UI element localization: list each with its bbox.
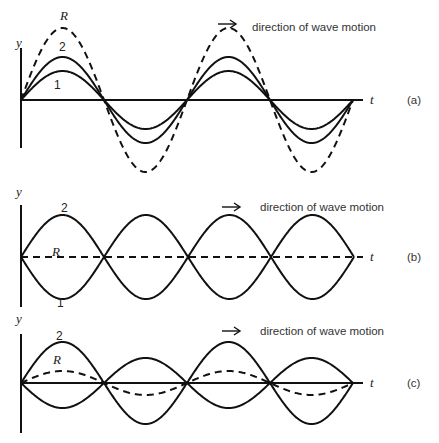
panel-tag: (b) [407,251,421,263]
t-axis-label: t [370,375,374,390]
panel-tag: (a) [407,94,421,106]
panel-tag: (c) [407,377,421,389]
t-axis-label: t [370,249,374,264]
label-2: 2 [61,201,68,215]
direction-label: direction of wave motion [260,325,384,337]
panel-c: 2Ryt(c)direction of wave motion [14,311,421,433]
panel-b: 2R1yt(b)direction of wave motion [14,184,421,310]
label-r: R [51,244,60,259]
direction-label: direction of wave motion [260,201,384,213]
direction-label: direction of wave motion [252,21,376,33]
label-r: R [59,8,68,23]
label-y: y [14,35,22,50]
panel-a: R21yt(a)direction of wave motion [14,8,421,172]
label-y: y [14,311,22,326]
figure-canvas: R21yt(a)direction of wave motion2R1yt(b)… [0,0,439,443]
t-axis-label: t [370,92,374,107]
label-2: 2 [59,40,66,54]
label-y: y [14,184,22,199]
label-2: 2 [56,329,63,343]
label-1: 1 [54,78,61,92]
label-r: R [52,352,61,367]
wave-superposition-figure: R21yt(a)direction of wave motion2R1yt(b)… [0,0,439,443]
label-1: 1 [57,296,64,310]
